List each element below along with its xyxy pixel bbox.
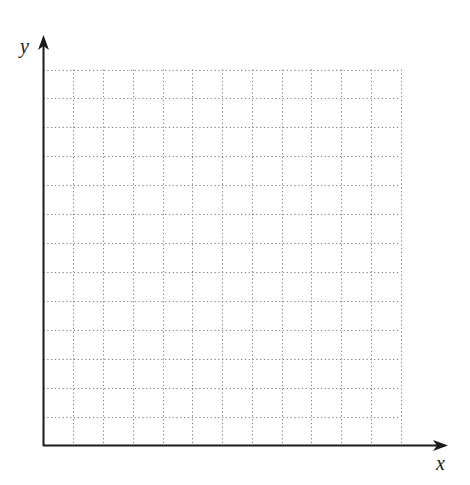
grid-lines (44, 70, 402, 446)
y-axis (38, 35, 49, 446)
y-axis-label: y (20, 36, 29, 56)
x-axis (43, 440, 448, 451)
coordinate-grid (0, 0, 470, 485)
x-axis-label: x (436, 453, 445, 473)
